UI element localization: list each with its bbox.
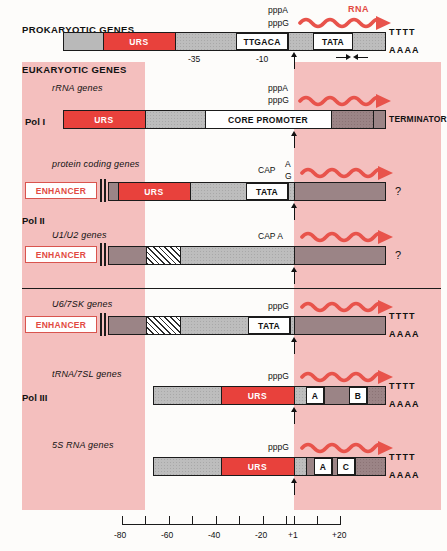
axis-tick: [122, 516, 123, 525]
segment-hatched: [146, 247, 180, 264]
segment-spacer: [180, 247, 294, 264]
trna-tail-bottom: AAAA: [389, 400, 420, 409]
segment-proximal: [108, 247, 146, 264]
axis-tick: [317, 516, 318, 525]
rrna-start-nt-top: pppA: [268, 84, 288, 93]
segment-spacer: [190, 183, 246, 200]
rna-wave-protein: [300, 164, 396, 180]
box-enhancer-protein: ENHANCER: [25, 182, 97, 199]
break-mark-protein-b: [104, 179, 106, 202]
axis-line: [122, 524, 340, 525]
segment-upstream: [153, 387, 221, 404]
segment-downstream: [353, 33, 386, 50]
rna-wave-prokaryotic: [298, 14, 394, 30]
u6-start-nt: pppG: [268, 302, 289, 311]
divider-pol2-pol3: [22, 288, 441, 289]
u6-tail-bottom: AAAA: [389, 330, 420, 339]
box-enhancer-u1u2: ENHANCER: [25, 246, 97, 263]
axis-label-plus1: +1: [288, 531, 298, 540]
start-site-arrow-trna: [291, 407, 298, 424]
tick-label-minus10: -10: [256, 55, 268, 64]
axis-tick: [145, 516, 146, 525]
segment-hatched: [146, 317, 180, 334]
segment-downstream: [367, 387, 386, 404]
axis-label-minus60: -60: [161, 531, 173, 540]
rrna-start-nt-bottom: pppG: [268, 96, 289, 105]
segment-spacer-1: [175, 33, 236, 50]
rna-wave-u6: [300, 298, 396, 314]
axis-label-minus20: -20: [255, 531, 267, 540]
segment-terminator: [373, 111, 386, 128]
break-mark-u6-a: [100, 313, 102, 336]
cap-label-u1u2: CAP A: [258, 232, 283, 241]
prok-start-nt-top: pppA: [268, 6, 288, 15]
segment-proximal: [108, 317, 146, 334]
trna-tail-top: TTTT: [389, 382, 416, 391]
break-mark-u1u2-b: [104, 243, 106, 266]
segment-pre-a: [306, 458, 314, 475]
cap-nt-bottom: G: [285, 172, 292, 181]
gene-bar-trna-7sl: A B URS: [153, 386, 386, 405]
box-enhancer-u6: ENHANCER: [25, 316, 97, 333]
axis-label-minus40: -40: [208, 531, 220, 540]
label-urs-prok: URS: [103, 33, 175, 50]
segment-proximal: [108, 183, 118, 200]
terminator-convergent-arrows: [336, 54, 368, 61]
u6-tail-top: TTTT: [389, 312, 416, 321]
cap-label-protein: CAP: [258, 166, 275, 175]
segment-transcribed: [331, 111, 373, 128]
box-a-trna: A: [306, 387, 324, 404]
rna-label: RNA: [348, 5, 369, 14]
segment-spacer: [294, 458, 306, 475]
fives-tail-bottom: AAAA: [389, 471, 420, 480]
box-b-trna: B: [349, 387, 367, 404]
axis-tick: [340, 516, 341, 525]
axis-tick: [239, 516, 240, 525]
axis-label-plus20: +20: [332, 531, 346, 540]
axis-label-minus80: -80: [114, 531, 126, 540]
page-title-eukaryotic: EUKARYOTIC GENES: [22, 65, 127, 75]
tick-label-minus35: -35: [188, 55, 200, 64]
axis-tick: [263, 516, 264, 525]
segment-transcribed: [294, 247, 386, 264]
segment-spacer: [145, 111, 205, 128]
break-mark-u6-b: [104, 313, 106, 336]
axis-tick: [192, 516, 193, 525]
box-tata-prok: TATA: [313, 33, 353, 50]
start-site-arrow-u1u2: [291, 267, 298, 284]
pol-label-2: Pol II: [22, 216, 45, 226]
break-mark-protein-a: [100, 179, 102, 202]
rna-wave-rrna: [298, 92, 394, 108]
box-c-5s: C: [337, 458, 355, 475]
row-title-protein-coding: protein coding genes: [52, 160, 140, 169]
fives-start-nt: pppG: [268, 443, 289, 452]
row-title-trna-7sl: tRNA/7SL genes: [52, 370, 122, 379]
start-site-arrow-rrna: [291, 131, 298, 148]
segment-transcribed: [294, 317, 386, 334]
gene-bar-prokaryotic: TTGACA TATA URS: [63, 32, 386, 51]
gene-bar-protein-coding: TATA URS: [108, 182, 386, 201]
prok-tail-bottom: AAAA: [389, 46, 420, 55]
axis-tick: [169, 516, 170, 525]
box-tata-protein: TATA: [246, 183, 288, 200]
gene-bar-rrna: URS CORE PROMOTER: [63, 110, 386, 129]
box-tata-u6: TATA: [248, 317, 290, 334]
start-site-arrow-u6: [291, 337, 298, 354]
pol-label-3: Pol III: [22, 393, 47, 403]
gene-bar-u1-u2: [108, 246, 386, 265]
end-question-protein: ?: [395, 186, 401, 197]
pol-label-1: Pol I: [25, 117, 45, 127]
gene-bar-u6-7sk: TATA: [108, 316, 386, 335]
row-title-u6-7sk: U6/7SK genes: [52, 300, 112, 309]
cap-nt-top: A: [285, 160, 291, 169]
trna-start-nt: pppG: [268, 372, 289, 381]
label-urs-trna: URS: [221, 387, 294, 404]
prok-tail-top: TTTT: [389, 28, 416, 37]
fives-tail-top: TTTT: [389, 453, 416, 462]
axis-tick: [286, 516, 287, 525]
label-terminator: TERMINATOR: [389, 115, 447, 124]
row-title-u1-u2: U1/U2 genes: [52, 231, 107, 240]
box-a-5s: A: [314, 458, 332, 475]
start-site-arrow-prok: [291, 52, 298, 69]
